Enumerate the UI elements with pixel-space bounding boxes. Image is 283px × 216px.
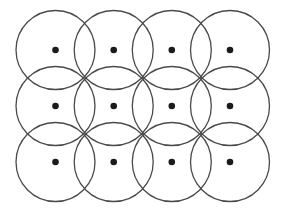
center-dot-r3-c2	[110, 159, 117, 166]
center-dot-r1-c2	[110, 47, 117, 54]
diagram-canvas	[0, 0, 283, 216]
center-dot-r2-c4	[227, 103, 234, 110]
center-dot-r1-c4	[227, 47, 234, 54]
center-dot-r3-c4	[227, 159, 234, 166]
center-dot-r1-c1	[52, 47, 59, 54]
center-dot-r1-c3	[169, 47, 176, 54]
center-dot-r2-c1	[52, 103, 59, 110]
overlapping-circles-diagram	[0, 0, 283, 216]
center-dot-r2-c3	[169, 103, 176, 110]
center-dot-r2-c2	[110, 103, 117, 110]
center-dot-r3-c1	[52, 159, 59, 166]
center-dot-r3-c3	[169, 159, 176, 166]
